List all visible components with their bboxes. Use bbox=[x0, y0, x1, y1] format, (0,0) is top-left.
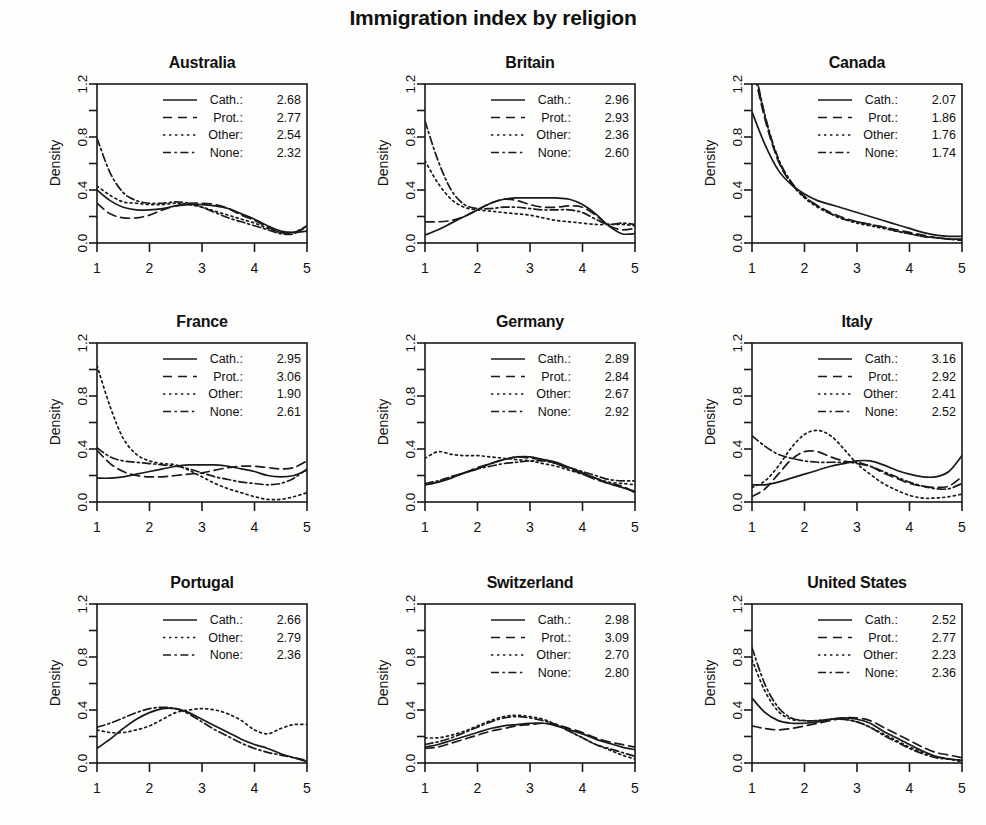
plot-area: 0.00.40.81.212345Cath.:2.98Prot.:3.09Oth… bbox=[350, 604, 650, 825]
legend-label: Prot.: bbox=[868, 370, 898, 384]
y-tick-label: 0.4 bbox=[75, 700, 90, 719]
panel-title: United States bbox=[752, 574, 962, 592]
density-curve-none bbox=[752, 648, 962, 761]
legend: Cath.:2.52Prot.:2.77Other:2.23None:2.36 bbox=[818, 613, 956, 680]
x-tick-label: 5 bbox=[303, 519, 311, 535]
plot-area: 0.00.40.81.212345Cath.:3.16Prot.:2.92Oth… bbox=[677, 343, 977, 564]
legend: Cath.:2.89Prot.:2.84Other:2.67None:2.92 bbox=[491, 352, 629, 419]
x-tick-label: 5 bbox=[303, 780, 311, 796]
y-tick-label: 0.4 bbox=[730, 439, 745, 458]
density-curve-none bbox=[97, 448, 307, 485]
legend-value: 2.52 bbox=[932, 405, 956, 419]
panel-title: France bbox=[97, 313, 307, 331]
x-tick-label: 2 bbox=[146, 260, 154, 276]
legend-value: 1.76 bbox=[932, 128, 956, 142]
y-tick-label: 1.2 bbox=[730, 75, 745, 94]
legend-value: 2.96 bbox=[605, 93, 629, 107]
legend: Cath.:2.07Prot.:1.86Other:1.76None:1.74 bbox=[818, 93, 956, 160]
legend-value: 2.84 bbox=[605, 370, 629, 384]
x-tick-label: 5 bbox=[631, 260, 639, 276]
density-curve-other bbox=[752, 430, 962, 498]
legend-label: Cath.: bbox=[210, 93, 243, 107]
y-tick-label: 0.4 bbox=[403, 180, 418, 199]
x-tick-label: 2 bbox=[801, 519, 809, 535]
y-tick-label: 0.8 bbox=[403, 387, 418, 406]
x-tick-label: 2 bbox=[146, 780, 154, 796]
x-tick-label: 3 bbox=[526, 519, 534, 535]
legend: Cath.:3.16Prot.:2.92Other:2.41None:2.52 bbox=[818, 352, 956, 419]
plot-frame bbox=[97, 604, 307, 763]
legend: Cath.:2.96Prot.:2.93Other:2.36None:2.60 bbox=[491, 93, 629, 160]
legend-value: 2.36 bbox=[605, 128, 629, 142]
density-curve-other bbox=[425, 715, 635, 759]
plot-area: 0.00.40.81.212345Cath.:2.95Prot.:3.06Oth… bbox=[22, 343, 322, 564]
legend-label: Other: bbox=[208, 128, 243, 142]
x-tick-label: 4 bbox=[906, 780, 914, 796]
y-tick-label: 0.8 bbox=[75, 387, 90, 406]
panel-title: Portugal bbox=[97, 574, 307, 592]
x-tick-label: 4 bbox=[251, 260, 259, 276]
legend-label: Cath.: bbox=[210, 352, 243, 366]
x-tick-label: 3 bbox=[198, 260, 206, 276]
legend-label: Other: bbox=[208, 631, 243, 645]
x-tick-label: 1 bbox=[93, 519, 101, 535]
density-curve-prot bbox=[752, 63, 962, 241]
y-tick-label: 1.2 bbox=[730, 595, 745, 614]
y-tick-label: 0.8 bbox=[403, 648, 418, 667]
density-curve-other bbox=[425, 161, 635, 226]
legend-value: 2.98 bbox=[605, 613, 629, 627]
density-curve-none bbox=[97, 138, 307, 234]
x-tick-label: 1 bbox=[421, 260, 429, 276]
legend-label: None: bbox=[210, 648, 243, 662]
y-tick-label: 0.0 bbox=[730, 234, 745, 253]
y-tick-label: 0.8 bbox=[730, 128, 745, 147]
legend-label: Prot.: bbox=[213, 111, 243, 125]
legend-label: None: bbox=[210, 405, 243, 419]
legend-value: 2.41 bbox=[932, 387, 956, 401]
y-tick-label: 0.4 bbox=[730, 180, 745, 199]
legend-value: 2.07 bbox=[932, 93, 956, 107]
legend-value: 2.93 bbox=[605, 111, 629, 125]
legend-value: 1.86 bbox=[932, 111, 956, 125]
legend-label: Cath.: bbox=[538, 613, 571, 627]
legend-label: Other: bbox=[536, 648, 571, 662]
density-curve-other bbox=[97, 366, 307, 500]
legend-label: Other: bbox=[536, 128, 571, 142]
legend-label: Other: bbox=[208, 387, 243, 401]
y-tick-label: 1.2 bbox=[403, 595, 418, 614]
y-tick-label: 1.2 bbox=[403, 75, 418, 94]
x-tick-label: 4 bbox=[906, 519, 914, 535]
legend: Cath.:2.66Other:2.79None:2.36 bbox=[163, 613, 301, 662]
x-tick-label: 2 bbox=[474, 260, 482, 276]
plot-area: 0.00.40.81.212345Cath.:2.89Prot.:2.84Oth… bbox=[350, 343, 650, 564]
plot-frame bbox=[752, 604, 962, 763]
y-tick-label: 0.8 bbox=[75, 648, 90, 667]
y-tick-label: 0.0 bbox=[75, 754, 90, 773]
x-tick-label: 3 bbox=[198, 780, 206, 796]
y-tick-label: 1.2 bbox=[75, 595, 90, 614]
panel-title: Germany bbox=[425, 313, 635, 331]
y-tick-label: 0.8 bbox=[75, 128, 90, 147]
legend-value: 3.06 bbox=[277, 370, 301, 384]
panel-title: Switzerland bbox=[425, 574, 635, 592]
x-tick-label: 1 bbox=[748, 519, 756, 535]
panel-title: Canada bbox=[752, 54, 962, 72]
y-tick-label: 0.8 bbox=[403, 128, 418, 147]
plot-area: 0.00.40.81.212345Cath.:2.66Other:2.79Non… bbox=[22, 604, 322, 825]
legend-label: None: bbox=[538, 146, 571, 160]
plot-area: 0.00.40.81.212345Cath.:2.07Prot.:1.86Oth… bbox=[677, 84, 977, 305]
legend-label: Other: bbox=[863, 128, 898, 142]
legend-value: 2.79 bbox=[277, 631, 301, 645]
legend-label: Cath.: bbox=[865, 613, 898, 627]
legend-label: Cath.: bbox=[210, 613, 243, 627]
x-tick-label: 3 bbox=[526, 260, 534, 276]
x-tick-label: 4 bbox=[906, 260, 914, 276]
plot-area: 0.00.40.81.212345Cath.:2.96Prot.:2.93Oth… bbox=[350, 84, 650, 305]
legend: Cath.:2.95Prot.:3.06Other:1.90None:2.61 bbox=[163, 352, 301, 419]
density-curve-cath bbox=[752, 456, 962, 485]
y-tick-label: 1.2 bbox=[75, 75, 90, 94]
plot-frame bbox=[97, 84, 307, 243]
y-tick-label: 0.0 bbox=[75, 493, 90, 512]
legend: Cath.:2.68Prot.:2.77Other:2.54None:2.32 bbox=[163, 93, 301, 160]
legend-value: 2.66 bbox=[277, 613, 301, 627]
